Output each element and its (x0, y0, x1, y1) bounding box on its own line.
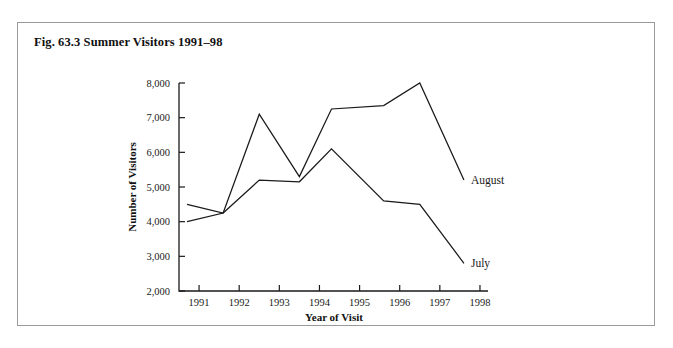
series-line-july (187, 149, 464, 263)
chart-svg: 2,0003,0004,0005,0006,0007,0008,000 1991… (18, 23, 656, 327)
x-tick-label: 1998 (469, 297, 490, 308)
line-chart: 2,0003,0004,0005,0006,0007,0008,000 1991… (18, 23, 656, 327)
y-tick-label: 4,000 (146, 216, 170, 227)
x-tick-label: 1995 (349, 297, 370, 308)
x-axis-tick-labels: 19911992199319941995199619971998 (189, 297, 491, 308)
y-tick-label: 3,000 (146, 251, 170, 262)
series-labels: AugustJuly (471, 174, 505, 270)
series-label-july: July (471, 257, 490, 270)
y-axis-title: Number of Visitors (126, 141, 138, 231)
y-axis-tick-labels: 2,0003,0004,0005,0006,0007,0008,000 (146, 78, 170, 297)
series-line-august (187, 83, 464, 222)
y-tick-label: 5,000 (146, 182, 170, 193)
x-tick-label: 1991 (189, 297, 210, 308)
x-tick-label: 1997 (429, 297, 450, 308)
figure-panel: Fig. 63.3 Summer Visitors 1991–98 2,0003… (17, 22, 655, 326)
x-axis-ticks (199, 285, 480, 291)
y-tick-label: 2,000 (146, 286, 170, 297)
x-tick-label: 1996 (389, 297, 410, 308)
x-tick-label: 1992 (229, 297, 250, 308)
y-axis-ticks (179, 83, 185, 291)
x-tick-label: 1994 (309, 297, 331, 308)
y-tick-label: 8,000 (146, 78, 170, 89)
series-label-august: August (471, 174, 505, 187)
axis-lines (179, 83, 488, 291)
y-tick-label: 7,000 (146, 112, 170, 123)
chart-axes (179, 83, 488, 291)
chart-series (187, 83, 464, 263)
x-axis-title: Year of Visit (305, 311, 363, 323)
x-tick-label: 1993 (269, 297, 290, 308)
y-tick-label: 6,000 (146, 147, 170, 158)
